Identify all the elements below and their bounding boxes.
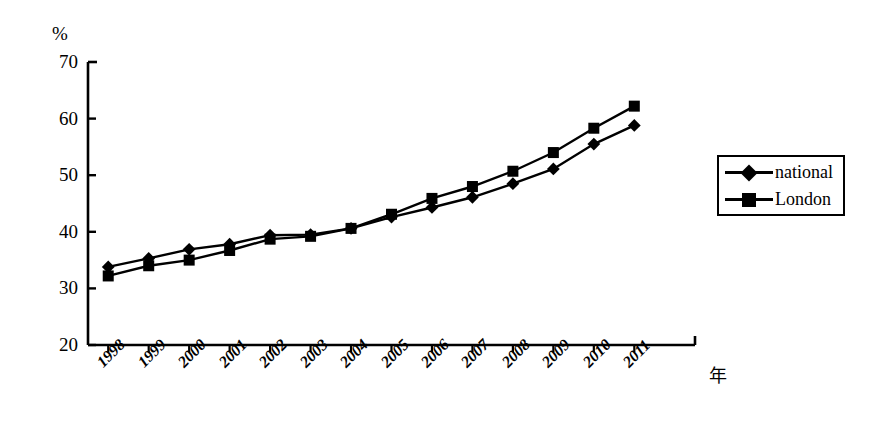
series-national bbox=[102, 119, 641, 273]
marker-square-2001 bbox=[224, 245, 235, 256]
marker-square-2004 bbox=[346, 223, 357, 234]
marker-square-1999 bbox=[143, 260, 154, 271]
marker-square-2005 bbox=[386, 209, 397, 220]
marker-diamond-2007 bbox=[466, 191, 479, 204]
marker-diamond-2000 bbox=[183, 243, 196, 256]
marker-diamond-2011 bbox=[628, 119, 641, 132]
marker-square-2010 bbox=[588, 123, 599, 134]
legend-label-london: London bbox=[775, 190, 831, 208]
marker-square-2000 bbox=[184, 255, 195, 266]
marker-square-2008 bbox=[507, 166, 518, 177]
marker-diamond-2009 bbox=[547, 163, 560, 176]
marker-square-2009 bbox=[548, 147, 559, 158]
legend-item-london: London bbox=[725, 186, 831, 212]
legend-marker-square-icon bbox=[725, 191, 773, 207]
legend: national London bbox=[717, 155, 845, 216]
marker-square-2007 bbox=[467, 181, 478, 192]
marker-square-1998 bbox=[103, 270, 114, 281]
legend-marker-diamond-icon bbox=[725, 164, 773, 180]
series-London bbox=[103, 101, 640, 282]
marker-square-2002 bbox=[265, 234, 276, 245]
chart-root: % 706050403020 1998199920002001200220032… bbox=[0, 0, 888, 431]
marker-square-2006 bbox=[426, 193, 437, 204]
marker-diamond-2010 bbox=[587, 138, 600, 151]
legend-item-national: national bbox=[725, 159, 833, 185]
marker-square-2003 bbox=[305, 231, 316, 242]
marker-square-2011 bbox=[629, 101, 640, 112]
legend-label-national: national bbox=[775, 163, 833, 181]
marker-diamond-2008 bbox=[507, 177, 520, 190]
